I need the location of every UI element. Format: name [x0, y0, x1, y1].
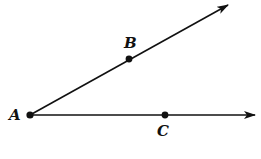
point-a: [26, 111, 33, 118]
angle-diagram: [0, 0, 261, 159]
point-b: [126, 56, 133, 63]
point-c: [162, 112, 169, 119]
label-a: A: [9, 108, 21, 123]
label-c: C: [157, 124, 169, 139]
label-b: B: [124, 36, 137, 51]
